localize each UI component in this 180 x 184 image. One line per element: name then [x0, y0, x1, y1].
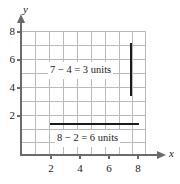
vertical-segment — [130, 43, 132, 96]
gridline-horizontal — [21, 45, 146, 46]
horizontal-length-annotation: 8 − 2 = 6 units — [55, 130, 120, 147]
y-tick-label: 2 — [3, 110, 15, 121]
x-axis-arrowhead-icon — [157, 151, 166, 159]
x-tick — [79, 154, 81, 159]
gridline-horizontal — [21, 87, 146, 88]
gridline-horizontal — [21, 101, 146, 102]
coordinate-plane-figure: 8 6 4 2 2 4 6 8 y x 7 − 4 = 3 units 8 − … — [0, 0, 180, 184]
y-tick — [17, 31, 22, 33]
y-axis-arrowhead-icon — [17, 14, 25, 23]
x-tick-label: 6 — [102, 163, 116, 174]
y-tick-label: 8 — [3, 26, 15, 37]
y-tick-label: 6 — [3, 54, 15, 65]
y-tick — [17, 115, 22, 117]
x-tick — [137, 154, 139, 159]
x-tick-label: 8 — [131, 163, 145, 174]
y-axis — [20, 22, 22, 156]
horizontal-segment — [50, 123, 139, 125]
gridline-horizontal — [21, 59, 146, 60]
vertical-length-annotation: 7 − 4 = 3 units — [48, 62, 113, 79]
gridline-horizontal — [21, 115, 146, 116]
x-tick-label: 2 — [44, 163, 58, 174]
y-tick — [17, 87, 22, 89]
gridline-vertical — [145, 31, 146, 155]
y-tick-label: 4 — [3, 82, 15, 93]
gridline-vertical — [132, 31, 133, 155]
x-tick-label: 4 — [73, 163, 87, 174]
y-axis-label: y — [23, 4, 28, 15]
x-tick — [50, 154, 52, 159]
x-axis-label: x — [169, 148, 174, 159]
gridline-vertical — [49, 31, 50, 155]
y-tick — [17, 59, 22, 61]
gridline-horizontal — [21, 31, 146, 32]
x-tick — [108, 154, 110, 159]
gridline-vertical — [35, 31, 36, 155]
